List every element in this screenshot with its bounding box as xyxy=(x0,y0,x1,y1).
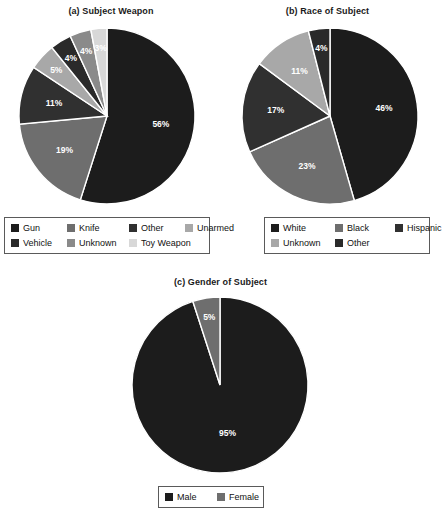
legend-label: Hispanic xyxy=(407,222,442,234)
legend-item[interactable]: Other xyxy=(335,237,395,249)
legend-item[interactable]: Hispanic xyxy=(395,222,442,234)
pie-slice-label: 4% xyxy=(80,46,93,56)
legend-label: Knife xyxy=(79,222,100,234)
legend-item[interactable]: Female xyxy=(217,491,259,503)
legend-label: Black xyxy=(347,222,369,234)
pie-svg-c: 95%5% xyxy=(108,292,333,482)
legend-item[interactable]: Gun xyxy=(11,222,67,234)
chart-panel-race-of-subject: (b) Race of Subject 46%23%17%11%4% White… xyxy=(222,6,433,254)
pie-slice-label: 4% xyxy=(65,53,78,63)
pie-slice-label: 11% xyxy=(291,66,308,76)
chart-panel-gender-of-subject: (c) Gender of Subject 95%5% MaleFemale xyxy=(108,277,333,508)
legend-label: Unknown xyxy=(283,237,321,249)
legend-label: Other xyxy=(347,237,370,249)
legend-label: Male xyxy=(177,491,197,503)
pie-slice-label: 95% xyxy=(219,428,236,438)
legend-item[interactable]: Black xyxy=(335,222,395,234)
pie-slice-label: 56% xyxy=(152,119,169,129)
legend-item[interactable]: Unknown xyxy=(67,237,129,249)
legend-swatch-icon xyxy=(129,239,137,247)
legend-swatch-icon xyxy=(165,493,173,501)
pie-slice-label: 4% xyxy=(315,43,328,53)
chart-title-a: (a) Subject Weapon xyxy=(4,6,218,17)
legend-item[interactable]: Knife xyxy=(67,222,129,234)
legend-swatch-icon xyxy=(185,224,193,232)
pie-slice-label: 23% xyxy=(298,161,315,171)
pie-chart-c: 95%5% xyxy=(108,292,333,482)
legend-c: MaleFemale xyxy=(158,486,264,508)
legend-item[interactable]: Other xyxy=(129,222,185,234)
legend-swatch-icon xyxy=(335,224,343,232)
legend-swatch-icon xyxy=(395,224,403,232)
legend-swatch-icon xyxy=(11,224,19,232)
pie-slice-label: 19% xyxy=(56,145,73,155)
legend-label: Gun xyxy=(23,222,40,234)
legend-item[interactable]: White xyxy=(271,222,335,234)
legend-label: Toy Weapon xyxy=(141,237,191,249)
legend-swatch-icon xyxy=(271,224,279,232)
legend-swatch-icon xyxy=(217,493,225,501)
legend-swatch-icon xyxy=(67,224,75,232)
legend-swatch-icon xyxy=(129,224,137,232)
legend-a: GunKnifeOtherUnarmedVehicleUnknownToy We… xyxy=(4,217,210,254)
pie-slice-label: 5% xyxy=(50,65,63,75)
legend-item[interactable]: Male xyxy=(165,491,217,503)
pie-slice-label: 17% xyxy=(267,105,284,115)
legend-item[interactable]: Toy Weapon xyxy=(129,237,185,249)
pie-slice-label: 46% xyxy=(375,103,392,113)
pie-svg-b: 46%23%17%11%4% xyxy=(222,21,433,211)
legend-b: WhiteBlackHispanicUnknownOther xyxy=(264,217,430,254)
legend-item[interactable]: Vehicle xyxy=(11,237,67,249)
pie-slice-label: 3% xyxy=(95,43,108,53)
chart-panel-subject-weapon: (a) Subject Weapon 56%19%11%5%4%4%3% Gun… xyxy=(4,6,218,254)
legend-swatch-icon xyxy=(67,239,75,247)
chart-title-b: (b) Race of Subject xyxy=(222,6,433,17)
chart-title-c: (c) Gender of Subject xyxy=(108,277,333,288)
legend-label: White xyxy=(283,222,306,234)
pie-slice-label: 5% xyxy=(203,312,216,322)
legend-label: Female xyxy=(229,491,259,503)
pie-svg-a: 56%19%11%5%4%4%3% xyxy=(4,21,218,211)
legend-label: Other xyxy=(141,222,164,234)
legend-item[interactable]: Unknown xyxy=(271,237,335,249)
legend-label: Vehicle xyxy=(23,237,52,249)
pie-chart-a: 56%19%11%5%4%4%3% xyxy=(4,21,218,211)
legend-label: Unknown xyxy=(79,237,117,249)
legend-swatch-icon xyxy=(11,239,19,247)
legend-swatch-icon xyxy=(271,239,279,247)
pie-slice-label: 11% xyxy=(46,98,63,108)
legend-swatch-icon xyxy=(335,239,343,247)
pie-chart-b: 46%23%17%11%4% xyxy=(222,21,433,211)
